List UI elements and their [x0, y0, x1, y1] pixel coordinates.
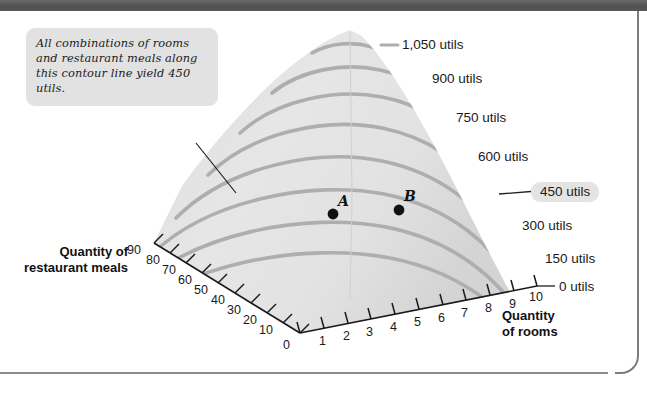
callout-annotation: All combinations of rooms and restaurant…	[26, 28, 218, 106]
data-point-b-label: B	[404, 188, 416, 204]
y-tick-60: 60	[178, 273, 192, 287]
contour-label-1050: 1,050 utils	[402, 37, 464, 52]
x-tick-2: 2	[343, 329, 350, 343]
x-tick-3: 3	[366, 325, 373, 339]
data-point-b	[394, 205, 405, 216]
contour-label-150: 150 utils	[545, 251, 595, 266]
data-point-a	[328, 209, 339, 220]
contour-label-600: 600 utils	[478, 149, 528, 164]
x-axis-title-line2: of rooms	[502, 324, 558, 340]
y-axis-title: Quantity of restaurant meals	[24, 244, 128, 275]
data-point-a-label: A	[338, 193, 349, 209]
y-tick-90: 90	[127, 243, 141, 257]
y-tick-30: 30	[227, 303, 241, 317]
contour-label-0: 0 utils	[559, 279, 594, 294]
x-axis-title: Quantity of rooms	[502, 308, 558, 339]
y-axis-title-line2: restaurant meals	[24, 260, 128, 276]
x-tick-4: 4	[390, 320, 397, 334]
y-tick-20: 20	[243, 313, 257, 327]
utility-contour-figure: All combinations of rooms and restaurant…	[0, 0, 647, 394]
x-axis-title-line1: Quantity	[502, 308, 558, 324]
x-tick-8: 8	[485, 301, 492, 315]
y-tick-10: 10	[259, 323, 273, 337]
x-tick-6: 6	[438, 311, 445, 325]
x-tick-10: 10	[529, 290, 543, 304]
contour-label-300: 300 utils	[522, 218, 572, 233]
x-tick-1: 1	[319, 334, 326, 348]
contour-label-750: 750 utils	[456, 110, 506, 125]
x-tick-5: 5	[414, 315, 421, 329]
y-tick-40: 40	[211, 293, 225, 307]
y-tick-50: 50	[194, 283, 208, 297]
y-tick-70: 70	[162, 263, 176, 277]
contour-label-900: 900 utils	[432, 71, 482, 86]
x-tick-7: 7	[461, 306, 468, 320]
y-tick-80: 80	[146, 253, 160, 267]
y-axis-title-line1: Quantity of	[24, 244, 128, 260]
contour-label-450: 450 utils	[531, 182, 599, 202]
y-tick-0: 0	[283, 338, 290, 352]
